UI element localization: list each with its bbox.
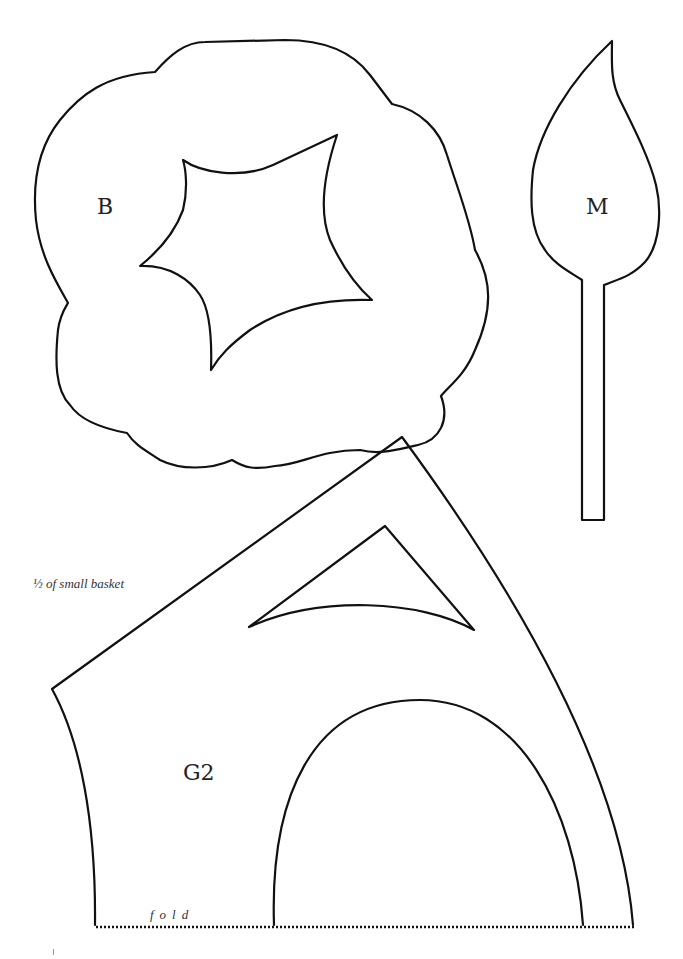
piece-b-label: B [97,194,113,219]
piece-g2-triangle-cutout [249,526,474,630]
basket-caption: ½ of small basket [33,576,124,592]
margin-tick-mark [53,949,54,955]
piece-b-outline [35,40,488,468]
fold-label: fold [150,907,194,923]
piece-m-leaf-outline [531,41,659,520]
pattern-shapes [0,0,683,959]
piece-g2-arch-cutout [274,700,583,925]
piece-m-label: M [586,194,609,219]
piece-g2-label: G2 [183,760,215,785]
pattern-page: B M G2 ½ of small basket fold [0,0,683,959]
piece-g2-outline [52,437,633,925]
piece-b-star-cutout [140,135,372,370]
